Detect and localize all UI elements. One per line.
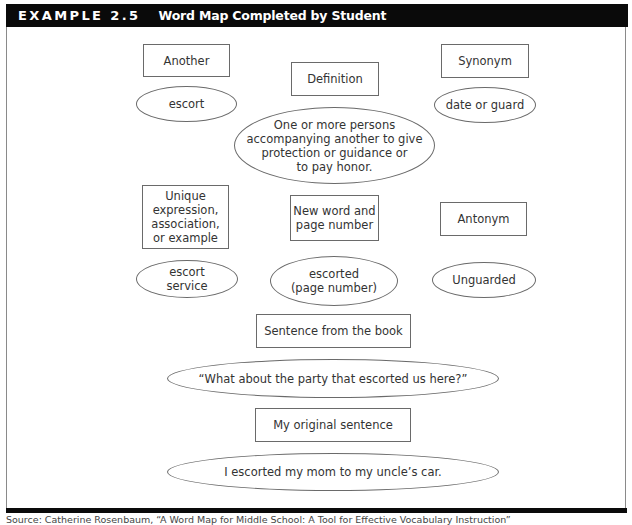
book-sentence-oval: “What about the party that escorted us h… [167,359,499,398]
original-sentence-label: My original sentence [273,418,393,432]
synonym-value: date or guard [446,98,524,112]
book-sentence-label: Sentence from the book [264,324,403,338]
new-word-label: New word and page number [293,204,375,232]
unique-expression-label: Unique expression, association, or examp… [151,189,219,245]
source-citation: Source: Catherine Rosenbaum, “A Word Map… [6,514,511,525]
unique-expression-oval: escort service [136,260,238,298]
definition-oval: One or more persons accompanying another… [234,107,435,184]
synonym-label: Synonym [458,54,512,68]
new-word-oval: escorted (page number) [270,256,398,306]
unique-expression-value: escort service [166,265,207,293]
antonym-box: Antonym [440,202,527,236]
example-number: EXAMPLE 2.5 [18,8,141,23]
unique-expression-box: Unique expression, association, or examp… [142,185,229,249]
original-sentence-oval: I escorted my mom to my uncle’s car. [167,453,499,491]
another-oval: escort [136,86,237,122]
synonym-oval: date or guard [434,87,536,123]
original-sentence-box: My original sentence [255,408,411,442]
book-sentence-box: Sentence from the book [256,314,411,348]
new-word-box: New word and page number [290,195,379,241]
antonym-value: Unguarded [452,273,516,287]
original-sentence-value: I escorted my mom to my uncle’s car. [224,465,442,479]
definition-label: Definition [307,72,363,86]
figure-title-bar: EXAMPLE 2.5 Word Map Completed by Studen… [6,4,628,27]
another-label: Another [164,54,210,68]
synonym-box: Synonym [441,44,529,78]
definition-box: Definition [291,62,379,96]
antonym-oval: Unguarded [432,262,536,298]
book-sentence-value: “What about the party that escorted us h… [199,372,468,386]
another-box: Another [143,44,230,77]
definition-value: One or more persons accompanying another… [246,118,422,174]
bottom-rule [6,508,627,513]
new-word-value: escorted (page number) [291,267,377,295]
antonym-label: Antonym [458,212,510,226]
figure-title: Word Map Completed by Student [159,8,387,23]
another-value: escort [169,97,205,111]
